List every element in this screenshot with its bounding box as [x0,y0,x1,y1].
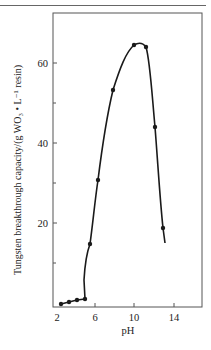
data-point [111,88,115,92]
x-tick-2: 2 [54,312,59,323]
data-point [83,297,87,301]
data-point [153,125,157,129]
x-tick-10: 10 [129,312,140,323]
data-point [161,226,165,230]
data-point [75,298,79,302]
x-axis-label: pH [122,325,135,336]
x-tick-14: 14 [169,312,180,323]
plot-frame [53,13,202,307]
data-markers [59,43,165,306]
y-tick-40: 40 [38,138,49,149]
data-point [144,45,148,49]
data-point [67,300,71,304]
y-tick-60: 60 [38,58,49,69]
chart-svg: 60 40 20 2 6 10 14 [0,0,211,350]
data-point [88,242,92,246]
y-ticks [53,63,57,263]
x-tick-6: 6 [92,312,97,323]
data-point [59,302,63,306]
x-ticks [95,303,174,307]
data-point [132,43,136,47]
data-curve [61,43,165,304]
y-axis-label: Tungsten breakthrough capacity/(g WO₃ • … [12,65,23,275]
data-point [96,178,100,182]
y-tick-20: 20 [38,218,49,229]
